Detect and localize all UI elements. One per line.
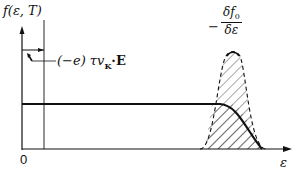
shift-label-main: (−e) τv (57, 53, 104, 68)
shift-arrow (22, 48, 56, 61)
derivative-numerator: δf (223, 5, 235, 19)
y-axis-label: f(ε, T) (3, 4, 42, 17)
shift-label-tail: ·E (111, 53, 125, 68)
shift-label: (−e) τvK·E (57, 54, 126, 70)
distribution-diagram: f(ε, T) 0 ε (−e) τvK·E − δf0 δε (0, 0, 303, 173)
derivative-minus: − (208, 20, 219, 33)
hatched-region (195, 40, 275, 150)
origin-label: 0 (20, 153, 27, 166)
y-axis (20, 26, 25, 150)
x-axis-label: ε (280, 156, 287, 169)
derivative-denominator: δε (221, 23, 242, 36)
diagram-graphics (0, 0, 303, 173)
derivative-numerator-sub: 0 (235, 12, 240, 21)
derivative-label: δf0 δε (221, 6, 242, 36)
